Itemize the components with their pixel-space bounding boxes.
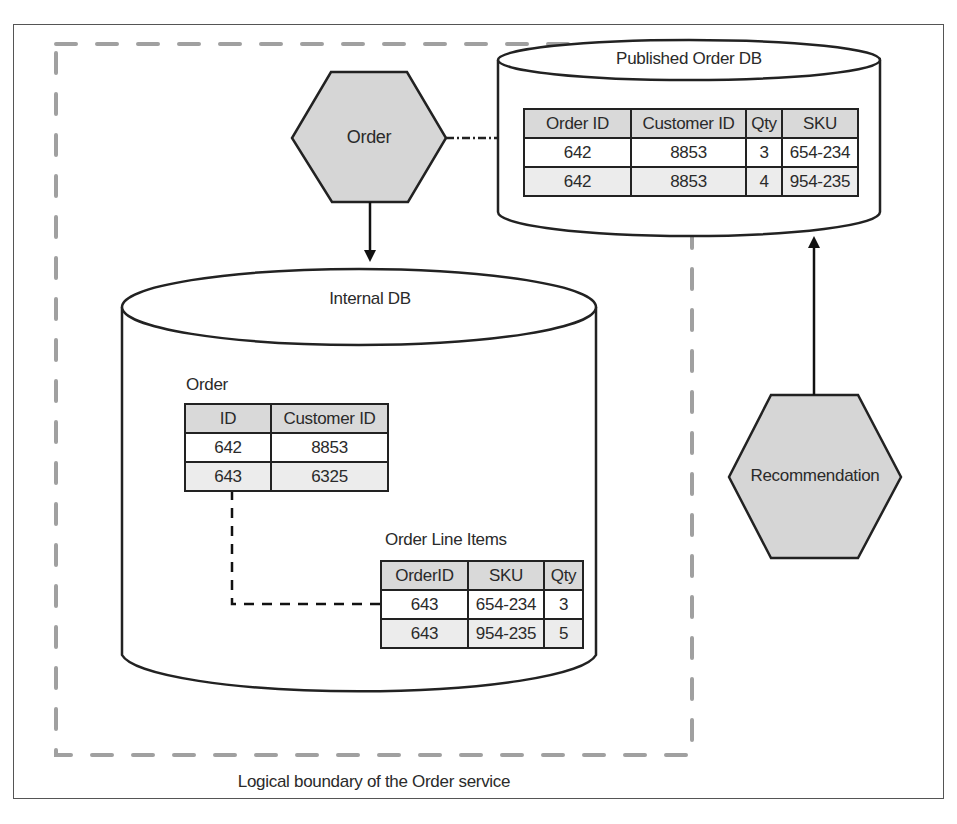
order-line-items-table: OrderID SKU Qty 643 654-234 3 643 954-23… — [380, 560, 584, 649]
table-cell: 8853 — [631, 167, 746, 196]
table-cell: 4 — [746, 167, 782, 196]
internal-order-table: ID Customer ID 642 8853 643 6325 — [184, 403, 389, 492]
column-header: Customer ID — [631, 109, 746, 138]
table-cell: 954-235 — [782, 167, 858, 196]
published-order-table: Order ID Customer ID Qty SKU 642 8853 3 … — [523, 108, 859, 197]
table-row: 642 8853 4 954-235 — [524, 167, 858, 196]
published-db-title: Published Order DB — [616, 49, 762, 69]
boundary-label: Logical boundary of the Order service — [238, 772, 510, 792]
table-row: 643 6325 — [185, 462, 388, 491]
table-row: 643 654-234 3 — [381, 590, 583, 619]
column-header: Qty — [544, 561, 583, 590]
table-cell: 654-234 — [468, 590, 544, 619]
column-header: Customer ID — [271, 404, 388, 433]
column-header: Order ID — [524, 109, 631, 138]
column-header: Qty — [746, 109, 782, 138]
table-cell: 8853 — [631, 138, 746, 167]
table-cell: 654-234 — [782, 138, 858, 167]
order-table-title: Order — [186, 375, 228, 395]
table-cell: 642 — [524, 167, 631, 196]
column-header: OrderID — [381, 561, 468, 590]
table-cell: 6325 — [271, 462, 388, 491]
table-row: 642 8853 3 654-234 — [524, 138, 858, 167]
table-cell: 8853 — [271, 433, 388, 462]
table-cell: 5 — [544, 619, 583, 648]
column-header: SKU — [782, 109, 858, 138]
order-service-label[interactable]: Order — [347, 127, 392, 148]
table-cell: 642 — [185, 433, 271, 462]
table-cell: 3 — [544, 590, 583, 619]
table-cell: 642 — [524, 138, 631, 167]
table-row: 642 8853 — [185, 433, 388, 462]
column-header: SKU — [468, 561, 544, 590]
column-header: ID — [185, 404, 271, 433]
internal-db-title: Internal DB — [329, 289, 411, 309]
table-cell: 643 — [381, 590, 468, 619]
table-cell: 3 — [746, 138, 782, 167]
recommendation-service-label[interactable]: Recommendation — [750, 466, 879, 486]
table-cell: 954-235 — [468, 619, 544, 648]
line-items-table-title: Order Line Items — [385, 530, 507, 550]
table-row: 643 954-235 5 — [381, 619, 583, 648]
table-cell: 643 — [185, 462, 271, 491]
table-cell: 643 — [381, 619, 468, 648]
